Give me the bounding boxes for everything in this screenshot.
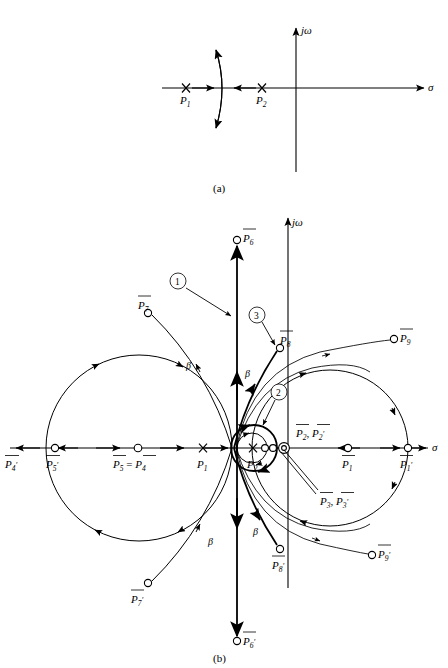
label-p9bar: P9	[399, 329, 413, 347]
svg-text:P7′: P7′	[130, 593, 143, 608]
label-p4bar-prime: P4′	[4, 456, 19, 474]
panel-a: σ jω P1 P2 (a)	[162, 24, 434, 195]
annotation-1-label: 1	[175, 277, 180, 287]
svg-text:P2, P2′: P2, P2′	[295, 427, 324, 442]
zero-p1bar-prime-marker	[404, 444, 411, 451]
label-p1-b: P1	[196, 458, 207, 473]
label-p9bar-prime: P9′	[377, 545, 391, 563]
label-p3bar-pair: P3, P3′	[319, 493, 354, 511]
panel-b-caption: (b)	[213, 652, 226, 665]
label-p8bar-prime: P8′	[271, 556, 285, 574]
beta-label-upper-left: β	[185, 360, 191, 371]
root-locus-figure: σ jω P1 P2 (a) jω σ	[0, 0, 448, 668]
svg-text:P3, P3′: P3, P3′	[319, 495, 348, 510]
svg-text:P6′: P6′	[242, 635, 255, 650]
branch-p9bar-prime-arrow	[312, 538, 320, 541]
label-p6bar: P6	[242, 229, 256, 247]
svg-text:P5′: P5′	[45, 458, 58, 473]
lead-p3bar-pair-1	[284, 450, 318, 490]
panel-a-pole-p1-label: P1	[179, 94, 190, 109]
panel-b: jω σ	[4, 216, 438, 665]
beta-label-upper-right: β	[244, 368, 250, 379]
label-p6bar-prime: P6′	[242, 632, 256, 650]
panel-a-caption: (a)	[213, 182, 226, 195]
branch-to-p7bar-prime	[152, 448, 232, 581]
label-p5bar-prime: P5′	[45, 456, 60, 474]
zero-p9bar-prime-marker	[368, 551, 375, 558]
zero-p9bar-marker	[390, 335, 397, 342]
beta-label-lower-right: β	[252, 526, 258, 537]
svg-text:P9: P9	[399, 332, 411, 347]
branch-to-p7bar	[152, 315, 232, 448]
label-p2bar-pair: P2, P2′	[295, 425, 330, 443]
svg-text:P9′: P9′	[377, 548, 390, 563]
zero-double-inner-marker	[282, 446, 287, 451]
label-p5bar-eq-p4bar: P5 = P4	[112, 456, 156, 474]
annotation-3-leader	[262, 322, 275, 345]
left-circle-arrow-ll	[95, 530, 99, 532]
zero-p8bar-prime-marker	[276, 545, 283, 552]
zero-p5bar-eq-p4bar-marker	[134, 444, 142, 452]
svg-text:P7: P7	[137, 299, 149, 314]
annotation-2-label: 2	[276, 388, 281, 398]
svg-text:P6: P6	[242, 232, 254, 247]
branch-right-thin-lower	[236, 448, 370, 531]
svg-text:P8′: P8′	[271, 559, 284, 574]
lead-p3bar-pair-2	[281, 452, 316, 494]
panel-a-breakaway-arc-down	[216, 50, 222, 128]
label-p1bar-prime: P1′	[399, 456, 413, 474]
panel-a-pole-p2-label: P2	[255, 94, 267, 109]
zero-small-marker-1	[262, 445, 269, 452]
label-p1bar: P1	[341, 456, 355, 474]
branch-p9bar-arrow	[322, 354, 330, 356]
right-circle-arrow-lr	[392, 482, 395, 489]
zero-p6bar-prime-marker	[233, 637, 240, 644]
annotation-2-leader	[263, 400, 275, 425]
annotation-3-label: 3	[254, 311, 259, 321]
svg-text:P4′: P4′	[4, 458, 17, 473]
zero-p6bar-marker	[233, 236, 240, 243]
annotation-1-leader	[186, 288, 231, 316]
zero-p7bar-prime-marker	[144, 579, 151, 586]
panel-b-sigma-label: σ	[432, 441, 438, 453]
svg-text:P1: P1	[341, 458, 352, 473]
panel-a-jomega-label: jω	[299, 24, 312, 36]
zero-small-marker-2	[270, 445, 277, 452]
figure-root: σ jω P1 P2 (a) jω σ	[0, 0, 448, 668]
panel-b-jomega-label: jω	[290, 216, 303, 228]
label-p7bar-prime: P7′	[130, 590, 144, 608]
svg-text:P5 = P4: P5 = P4	[112, 458, 146, 473]
zero-p1bar-marker	[344, 444, 351, 451]
left-circle-arrow-ul	[95, 364, 99, 366]
svg-text:P1′: P1′	[399, 458, 412, 473]
panel-a-sigma-label: σ	[428, 81, 434, 93]
right-circle-arrow-ur	[392, 408, 395, 415]
beta-label-lower-left: β	[207, 536, 213, 547]
zero-p5bar-prime-marker	[51, 444, 58, 451]
